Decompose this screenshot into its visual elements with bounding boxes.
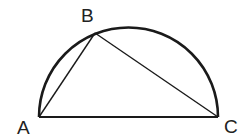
geometry-diagram: A B C	[0, 0, 248, 140]
semicircle-arc	[39, 28, 218, 117]
label-b: B	[81, 5, 94, 26]
segment-bc	[95, 33, 218, 117]
label-a: A	[17, 117, 30, 138]
segment-ab	[39, 33, 95, 117]
label-c: C	[224, 116, 238, 137]
